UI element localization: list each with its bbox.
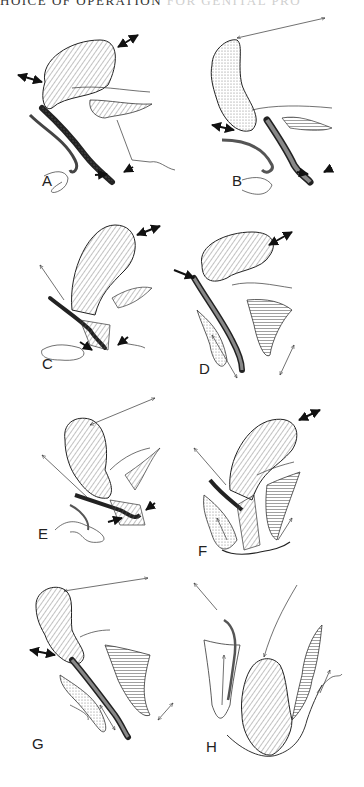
panel-label: D: [199, 360, 210, 377]
panel-g-illustration: [0, 585, 182, 765]
panel-label: F: [198, 542, 207, 559]
panel-f-illustration: [182, 400, 364, 580]
clipped-header-dark: HOICE OF OPERATION: [0, 0, 162, 7]
panel-label: A: [42, 172, 52, 189]
panel-e-illustration: [0, 400, 182, 580]
clipped-header-text: HOICE OF OPERATION FOR GENITAL PRO: [0, 0, 364, 7]
panel-h: H: [182, 585, 364, 785]
panel-b: B: [182, 20, 364, 200]
panel-d: D: [182, 210, 364, 390]
panel-g: G: [0, 585, 182, 765]
panel-label: G: [32, 735, 44, 752]
panel-label: C: [42, 355, 53, 372]
panel-f: F: [182, 400, 364, 580]
panel-label: H: [206, 738, 217, 755]
panel-label: B: [232, 172, 242, 189]
panel-e: E: [0, 400, 182, 580]
panel-b-illustration: [182, 20, 364, 200]
panel-a-illustration: [0, 20, 182, 200]
panel-c: C: [0, 210, 182, 390]
panel-a: A: [0, 20, 182, 200]
clipped-header-faded: FOR GENITAL PRO: [162, 0, 301, 7]
panel-h-illustration: [182, 585, 364, 785]
panel-label: E: [38, 525, 48, 542]
panel-c-illustration: [0, 210, 182, 390]
